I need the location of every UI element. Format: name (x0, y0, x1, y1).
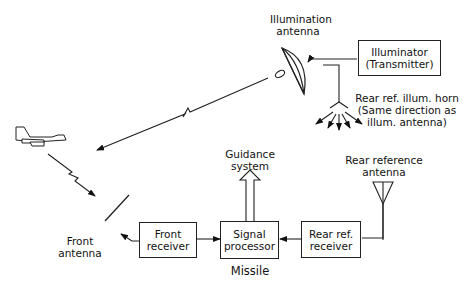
missile-label: Missile (226, 265, 274, 277)
block-label-line: Front (155, 228, 182, 240)
block-label-line: receiver (310, 240, 353, 252)
aircraft-target-icon (16, 127, 66, 146)
rear-ref-receiver-block: Rear ref. receiver (301, 221, 361, 258)
illumination-antenna-label: Illumination antenna (270, 13, 326, 37)
block-label-line: Signal (233, 228, 265, 240)
illuminator-to-antenna-line (308, 59, 357, 62)
front-receiver-to-antenna-line (121, 234, 139, 241)
illuminator-block: Illuminator (Transmitter) (358, 40, 441, 76)
block-label-line: Rear ref. (309, 228, 353, 240)
label-line: illum. antenna) (352, 116, 462, 128)
guidance-system-label: Guidance system (222, 148, 278, 172)
block-label-line: receiver (147, 240, 190, 252)
guidance-output-arrow (240, 170, 260, 222)
block-label-line: (Transmitter) (365, 58, 433, 70)
label-line: (Same direction as (352, 104, 462, 116)
block-label-line: Illuminator (371, 46, 428, 58)
label-line: Rear reference (345, 154, 423, 166)
label-line: system (222, 160, 278, 172)
label-line: antenna (58, 247, 102, 259)
rear-reference-antenna-icon (362, 182, 393, 240)
illumination-wave-arrow (97, 78, 268, 150)
rear-reference-antenna-label: Rear reference antenna (345, 154, 423, 178)
front-antenna-icon (105, 195, 129, 221)
block-label-line: processor (224, 240, 275, 252)
label-line: antenna (345, 166, 423, 178)
label-line: Rear ref. illum. horn (352, 92, 462, 104)
signal-processor-block: Signal processor (220, 221, 279, 259)
illuminator-to-horn-line (323, 65, 339, 102)
label-line: Front (58, 235, 102, 247)
front-receiver-block: Front receiver (139, 222, 197, 258)
label-line: Illumination (270, 13, 326, 25)
label-line: Guidance (222, 148, 278, 160)
reflected-wave-arrow (48, 154, 95, 196)
rear-ref-horn-label: Rear ref. illum. horn (Same direction as… (352, 92, 462, 128)
label-line: antenna (270, 25, 326, 37)
illumination-antenna-icon (274, 48, 305, 94)
front-antenna-label: Front antenna (58, 235, 102, 259)
